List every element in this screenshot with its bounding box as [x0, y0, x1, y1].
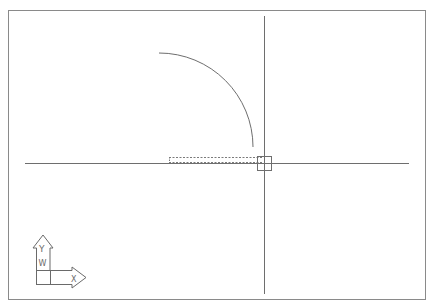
- drawing-viewport[interactable]: Y W X: [0, 0, 431, 306]
- ucs-w-label: W: [39, 259, 47, 268]
- ucs-icon: Y W X: [33, 235, 86, 288]
- ucs-y-label: Y: [38, 244, 45, 254]
- viewport-border: [9, 11, 426, 300]
- ucs-x-arrow: [51, 267, 87, 288]
- crosshair-cursor: [25, 16, 409, 294]
- arc-entity[interactable]: [159, 53, 253, 147]
- drawing-canvas[interactable]: Y W X: [0, 0, 431, 306]
- ucs-x-label: X: [71, 275, 77, 284]
- ucs-origin-square: [37, 271, 51, 285]
- selection-preview-rectangle: [169, 157, 262, 163]
